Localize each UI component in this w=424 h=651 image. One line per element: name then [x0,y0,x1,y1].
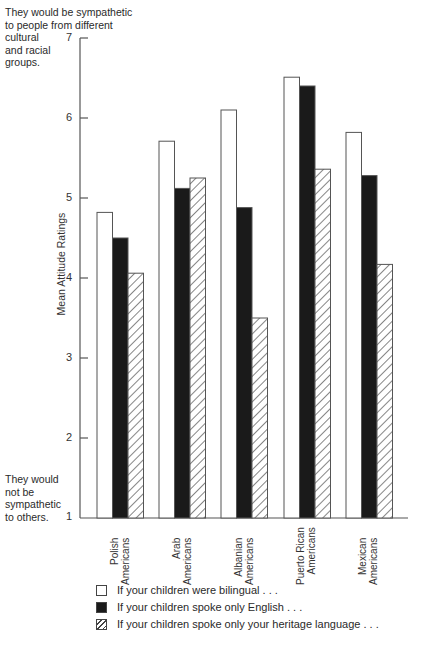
bar [315,169,331,518]
legend-label: If your children were bilingual . . . [117,584,278,596]
bar [377,264,393,518]
bar [221,110,237,518]
bar [362,176,378,518]
category-label-mexican: Mexican Americans [358,538,379,585]
bar [128,273,144,518]
bar [346,132,362,518]
bar [237,208,253,518]
legend-item-english-only: If your children spoke only English . . … [96,600,302,614]
bar [113,238,129,518]
category-label-puerto-rican: Puerto Rican Americans [296,527,317,585]
legend-label: If your children spoke only English . . … [117,601,302,613]
y-ticks [80,38,88,438]
bar [159,141,175,518]
bar [190,178,206,518]
legend-swatch-white [96,585,107,596]
legend-item-bilingual: If your children were bilingual . . . [96,583,278,597]
bar [300,86,316,518]
bar [175,188,191,518]
category-label-polish: Polish Americans [110,538,131,585]
category-label-albanian: Albanian Americans [234,538,255,585]
legend-swatch-black [96,602,107,613]
bar [284,77,300,518]
bar [252,318,268,518]
legend-label: If your children spoke only your heritag… [117,618,379,630]
bars [97,77,393,518]
legend-swatch-hatched [96,619,107,630]
category-label-arab: Arab Americans [172,538,193,585]
bar [97,212,113,518]
legend-item-heritage-only: If your children spoke only your heritag… [96,617,379,631]
